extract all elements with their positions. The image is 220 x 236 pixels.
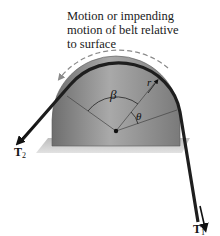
beta-label: β [109, 87, 117, 102]
motion-caption: Motion or impending motion of belt relat… [67, 9, 178, 51]
caption-line-3: to surface [67, 37, 178, 51]
tension-t2-arrow [19, 124, 36, 142]
radius-label: r [147, 76, 152, 88]
center-point [114, 129, 118, 133]
theta-label: θ [136, 110, 142, 122]
t2-label: T2 [14, 145, 26, 160]
caption-line-1: Motion or impending [67, 9, 178, 23]
caption-line-2: motion of belt relative [67, 23, 178, 37]
t1-label: T1 [193, 222, 205, 236]
